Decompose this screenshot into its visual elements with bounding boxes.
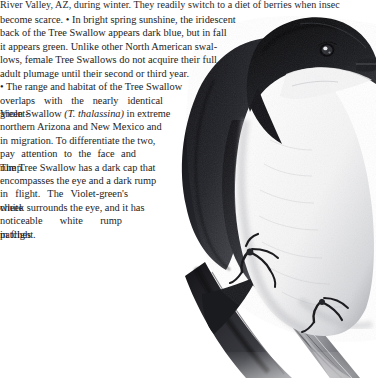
text-line: • The range and habitat of the Tree Swal… [0,80,175,93]
white-throat [280,67,372,99]
text-line: in flight. [0,228,40,241]
white-breast [235,66,374,336]
beak [356,59,376,72]
text-line: in migration. To differentiate the two, [0,134,143,147]
text-line: back of the Tree Swallow appears dark bl… [0,26,218,39]
dark-back-and-wing [182,38,288,334]
scientific-name: (T. thalassina) [64,108,124,119]
text-line: green Swallow (T. thalassina) in extreme [0,107,155,120]
text-line: lows, female Tree Swallows do not acquir… [0,53,202,66]
text-line: encompasses the eye and a dark rump [0,174,135,187]
tail [185,262,292,378]
field-guide-page: River Valley, AZ, during winter. They re… [0,0,376,378]
foot-lower [302,298,348,332]
text-line: become scarce. • In bright spring sunshi… [0,13,232,26]
clipped-top-line: River Valley, AZ, during winter. They re… [0,0,376,11]
foot [230,234,278,287]
text-line: The Tree Swallow has a dark cap that [0,161,136,174]
text-line: it appears green. Unlike other North Ame… [0,40,210,53]
eye [318,42,337,56]
text-line: cheek surrounds the eye, and it has [0,201,128,214]
dark-cap [247,17,376,144]
perch-branch [236,246,360,378]
text-line: northern Arizona and New Mexico and [0,120,148,133]
text-line: adult plumage until their second or thir… [0,67,186,80]
